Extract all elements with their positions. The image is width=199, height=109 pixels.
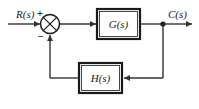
forward-transfer-block: G(s) bbox=[97, 9, 140, 39]
feedback-block-label: H(s) bbox=[90, 72, 111, 85]
forward-block-label: G(s) bbox=[109, 18, 129, 31]
input-signal-label: R(s) bbox=[15, 8, 35, 21]
block-diagram-canvas: G(s) H(s) R(s) C(s) + − bbox=[0, 0, 199, 109]
block-diagram-svg: G(s) H(s) R(s) C(s) + − bbox=[0, 0, 199, 109]
feedback-transfer-block: H(s) bbox=[79, 63, 122, 93]
summing-junction-plus-sign: + bbox=[37, 8, 43, 19]
summing-junction-minus-sign: − bbox=[38, 31, 44, 42]
output-signal-label: C(s) bbox=[168, 8, 187, 21]
